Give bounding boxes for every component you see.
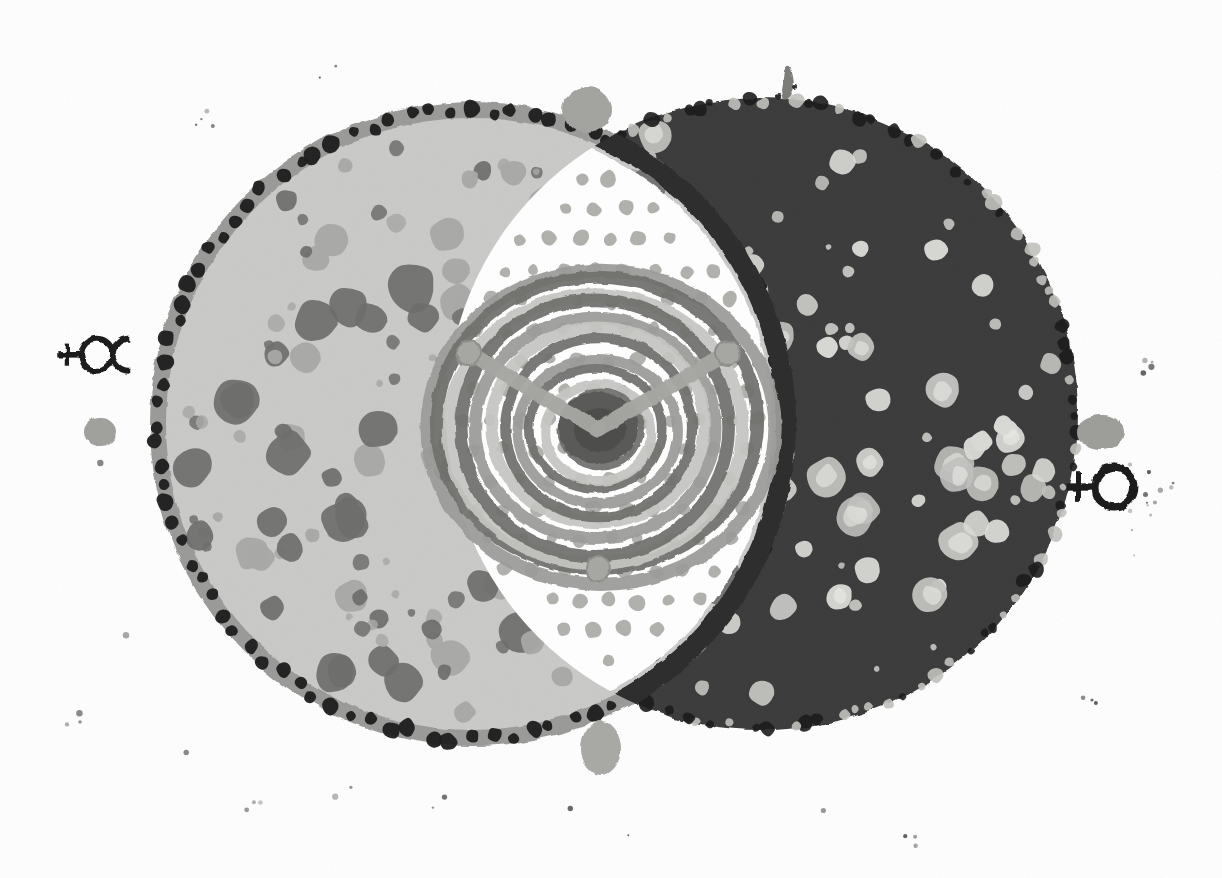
artboard: ☿ ♀ Two Interlocking Spheres with Centra…	[0, 0, 1222, 878]
ink-speck	[205, 109, 210, 114]
ink-speck	[1131, 529, 1133, 531]
rim-dot	[541, 112, 556, 126]
ink-speck	[319, 77, 321, 79]
ink-speck	[1151, 361, 1154, 364]
central-vortex	[427, 270, 775, 584]
svg-text:☿: ☿	[46, 329, 146, 382]
ink-speck	[1172, 482, 1175, 485]
ink-speck	[442, 794, 447, 799]
texture-dot	[462, 170, 478, 188]
ink-speck	[821, 808, 826, 813]
ink-speck	[432, 806, 434, 808]
svg-text:♀: ♀	[1056, 456, 1154, 518]
ink-speck	[1148, 364, 1154, 370]
ink-speck	[568, 806, 573, 811]
ink-speck	[195, 124, 197, 126]
ink-speck	[258, 800, 263, 805]
texture-dot	[551, 667, 573, 686]
ink-speck	[627, 834, 629, 836]
ink-speck	[1090, 698, 1093, 701]
illustration-canvas: ☿ ♀	[0, 0, 1222, 878]
ink-speck	[123, 632, 129, 638]
ink-speck	[97, 460, 103, 466]
vortex-node-2	[716, 341, 740, 365]
ink-speck	[65, 722, 69, 726]
right-edge-gray-blob	[1077, 415, 1125, 449]
ink-speck	[252, 800, 256, 804]
texture-dot	[305, 529, 319, 543]
ink-speck	[1169, 485, 1173, 489]
ink-speck	[1142, 358, 1147, 363]
vortex-node-1	[456, 341, 480, 365]
lens-dot	[630, 231, 647, 245]
ink-speck	[913, 844, 917, 848]
ink-speck	[334, 65, 337, 68]
venus-symbol: ♀	[1056, 456, 1154, 518]
lens-dot	[707, 264, 721, 278]
ink-speck	[332, 794, 338, 800]
ink-speck	[76, 710, 82, 716]
ink-speck	[1094, 701, 1098, 705]
rim-dot	[466, 730, 478, 743]
left-edge-gray-blob	[84, 418, 116, 446]
ink-speck	[200, 118, 202, 120]
rim-dot	[197, 572, 208, 583]
ink-speck	[349, 786, 352, 789]
ink-speck	[1081, 695, 1086, 700]
ink-speck	[1141, 370, 1147, 376]
texture-dot	[772, 211, 784, 223]
rim-dot	[950, 166, 961, 177]
bottom-gray-blob	[581, 721, 621, 775]
ink-speck	[184, 750, 189, 755]
rim-dot	[158, 330, 174, 345]
ink-speck	[211, 124, 215, 128]
ink-speck	[244, 807, 249, 812]
ink-speck	[1158, 488, 1163, 493]
texture-dot	[353, 554, 370, 570]
vortex-node-3	[586, 557, 610, 581]
ink-speck	[913, 835, 917, 839]
ink-speck	[78, 720, 81, 723]
mercury-symbol: ☿	[46, 329, 146, 382]
top-gray-blob	[562, 87, 612, 133]
ink-speck	[1133, 555, 1135, 557]
ink-speck	[903, 834, 907, 838]
